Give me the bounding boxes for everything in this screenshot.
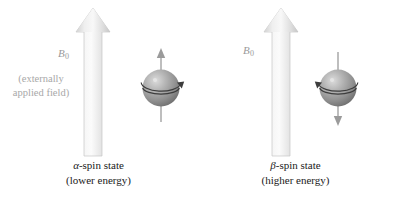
field-label-b0: B0 xyxy=(243,44,254,56)
nucleus-alpha xyxy=(128,44,194,130)
panel-alpha-spin: B0 (externally applied field) xyxy=(0,0,197,199)
field-label-b0: B0 xyxy=(58,47,69,59)
sphere-icon xyxy=(320,70,357,107)
caption-beta-spin: β-spin state (higher energy) xyxy=(197,158,394,188)
caption-beta-rest: -spin state xyxy=(276,159,321,171)
field-note: (externally applied field) xyxy=(0,72,82,100)
sphere-icon xyxy=(143,70,180,107)
caption-alpha-energy: (lower energy) xyxy=(0,173,197,188)
panel-beta-spin: B0 xyxy=(197,0,394,199)
nucleus-beta xyxy=(305,44,371,130)
spin-state-figure: B0 (externally applied field) xyxy=(0,0,394,199)
field-arrow-icon xyxy=(262,6,300,158)
caption-alpha-spin: α-spin state (lower energy) xyxy=(0,158,197,188)
caption-alpha-rest: -spin state xyxy=(79,159,124,171)
caption-beta-energy: (higher energy) xyxy=(197,173,394,188)
